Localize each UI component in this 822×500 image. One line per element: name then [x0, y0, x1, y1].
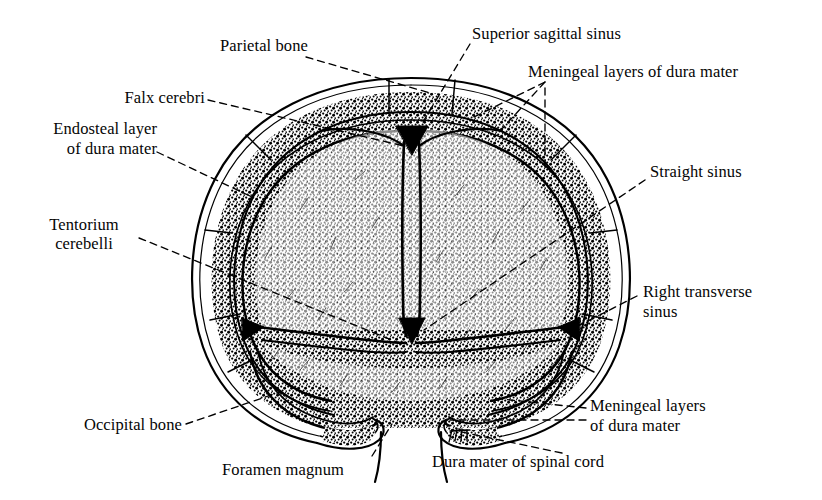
label-right-transverse-sinus-line1: Right transverse [643, 282, 752, 301]
label-foramen-magnum: Foramen magnum [222, 460, 344, 479]
label-occipital-bone: Occipital bone [30, 415, 182, 434]
label-meningeal-layers-bottom-line1: Meningeal layers [590, 396, 706, 415]
label-tentorium-cerebelli-line1: Tentorium [28, 215, 140, 234]
label-meningeal-layers-bottom-line2: of dura mater [590, 416, 680, 435]
label-meningeal-layers-top: Meningeal layers of dura mater [528, 62, 738, 81]
label-endosteal-layer-line1: Endosteal layer [0, 119, 157, 138]
occipital-lip-diploe [322, 425, 500, 446]
leader-foramen-magnum [372, 424, 392, 456]
label-dura-mater-of-spinal-cord: Dura mater of spinal cord [432, 452, 604, 471]
skull-structure [139, 44, 645, 482]
label-straight-sinus: Straight sinus [650, 162, 742, 181]
label-superior-sagittal-sinus: Superior sagittal sinus [472, 24, 621, 43]
label-parietal-bone: Parietal bone [30, 36, 308, 55]
label-falx-cerebri: Falx cerebri [0, 88, 205, 107]
label-endosteal-layer-line2: of dura mater [0, 139, 157, 158]
label-right-transverse-sinus-line2: sinus [643, 302, 677, 321]
leader-endosteal-layer [157, 152, 250, 196]
anatomical-figure: Parietal bone Falx cerebri Endosteal lay… [0, 0, 822, 500]
label-tentorium-cerebelli-line2: cerebelli [28, 234, 140, 253]
